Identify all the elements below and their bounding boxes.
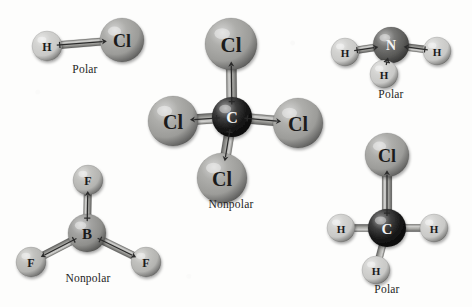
atom-label-ch3cl-4: H xyxy=(372,265,381,277)
atom-label-ccl4-0: C xyxy=(226,109,238,126)
atom-ch3cl-h-4: H xyxy=(362,256,390,284)
atom-ch3cl-h-3: H xyxy=(420,214,448,242)
caption-nh3: Polar xyxy=(361,88,421,100)
molecule-hcl: ClH xyxy=(32,18,144,62)
atom-nh3-h-3: H xyxy=(370,60,398,88)
atom-ccl4-cl-4: Cl xyxy=(197,153,247,203)
atom-layer-nh3: NHHH xyxy=(331,27,451,88)
atom-label-nh3-1: H xyxy=(341,47,350,59)
atom-nh3-h-2: H xyxy=(423,37,451,65)
molecule-nh3: NHHH xyxy=(331,27,451,88)
atom-bf3-f-3: F xyxy=(131,247,161,277)
atom-label-nh3-3: H xyxy=(380,69,389,81)
atom-label-nh3-0: N xyxy=(386,38,396,53)
molecular-polarity-figure: ClHClCClClClNHHHFBFFClHHCH Polar Nonpola… xyxy=(0,0,472,307)
atom-label-nh3-2: H xyxy=(433,46,442,58)
atom-label-hcl-0: H xyxy=(42,40,52,54)
atom-nh3-n-0: N xyxy=(373,27,409,63)
atom-layer-bf3: FBFF xyxy=(16,165,161,277)
atom-hcl-h-0: H xyxy=(32,31,62,61)
atom-label-hcl-1: Cl xyxy=(113,31,131,51)
atom-label-ch3cl-2: H xyxy=(337,223,346,235)
atom-label-bf3-3: F xyxy=(142,256,149,270)
atom-label-bf3-0: B xyxy=(82,226,92,242)
caption-ccl4: Nonpolar xyxy=(185,198,277,210)
atom-hcl-cl-1: Cl xyxy=(100,18,144,62)
molecule-ch3cl: ClHHCH xyxy=(327,133,448,284)
atom-ccl4-cl-2: Cl xyxy=(148,96,198,146)
caption-ch3cl: Polar xyxy=(357,283,417,295)
molecule-canvas: ClHClCClClClNHHHFBFFClHHCH xyxy=(0,0,472,307)
atom-label-ccl4-2: Cl xyxy=(163,111,183,133)
atom-label-ch3cl-0: C xyxy=(382,221,393,237)
atom-ccl4-cl-3: Cl xyxy=(273,98,323,148)
caption-bf3: Nonpolar xyxy=(42,272,134,284)
molecule-ccl4: ClCClClCl xyxy=(148,18,323,203)
caption-hcl: Polar xyxy=(55,63,115,75)
atom-label-bf3-1: F xyxy=(84,174,91,188)
atom-ch3cl-h-2: H xyxy=(327,214,355,242)
atom-label-ccl4-4: Cl xyxy=(212,168,232,190)
atom-nh3-h-1: H xyxy=(331,38,359,66)
atom-label-ccl4-1: Cl xyxy=(221,33,242,57)
atom-label-bf3-2: F xyxy=(27,256,34,270)
molecule-bf3: FBFF xyxy=(16,165,161,277)
atom-label-ch3cl-1: Cl xyxy=(378,146,396,166)
atom-bf3-f-1: F xyxy=(73,165,103,195)
atom-label-ch3cl-3: H xyxy=(430,223,439,235)
atom-label-ccl4-3: Cl xyxy=(288,113,308,135)
atom-layer-ccl4: ClCClClCl xyxy=(148,18,323,203)
